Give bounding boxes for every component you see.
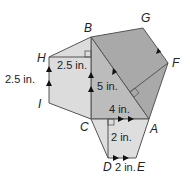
vertex-c: C bbox=[80, 120, 89, 134]
vertex-g: G bbox=[141, 11, 150, 25]
vertex-f: F bbox=[172, 56, 180, 70]
geometry-figure: B G F H I C A D E 2.5 in. 2.5 in. 5 in. … bbox=[0, 0, 190, 176]
label-bc: 5 in. bbox=[97, 80, 118, 92]
vertex-h: H bbox=[37, 51, 46, 65]
label-ca: 4 in. bbox=[109, 103, 130, 115]
vertex-e: E bbox=[137, 160, 146, 174]
trapezoid-hbci bbox=[49, 37, 91, 119]
vertex-b: B bbox=[84, 21, 92, 35]
vertex-d: D bbox=[103, 160, 112, 174]
vertex-i: I bbox=[38, 97, 42, 111]
label-hb: 2.5 in. bbox=[57, 59, 87, 71]
label-de: 2 in. bbox=[115, 161, 136, 173]
vertex-a: A bbox=[149, 122, 158, 136]
label-hi: 2.5 in. bbox=[5, 73, 35, 85]
label-cd: 2 in. bbox=[111, 131, 132, 143]
